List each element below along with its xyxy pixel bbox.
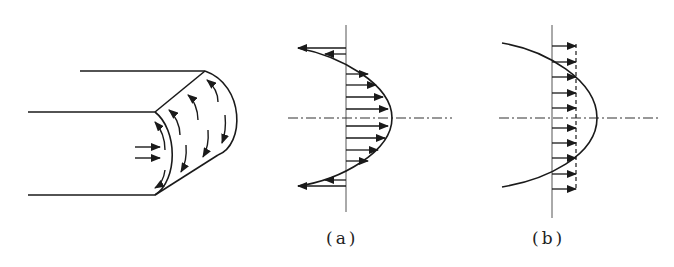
pipe-top-diagonal — [155, 71, 205, 112]
pipe-end-curve — [205, 71, 237, 155]
rotating-flow-arrows — [135, 80, 225, 188]
panel-label-b: (b) — [532, 228, 565, 248]
velocity-profile-a — [298, 48, 392, 186]
profile-a — [288, 25, 452, 212]
pipe-figure — [28, 71, 237, 195]
velocity-arrows-a — [298, 48, 388, 186]
profile-b — [499, 25, 660, 218]
diagram-canvas — [0, 0, 674, 267]
panel-label-a: (a) — [326, 228, 358, 248]
velocity-profile-b — [502, 43, 597, 187]
